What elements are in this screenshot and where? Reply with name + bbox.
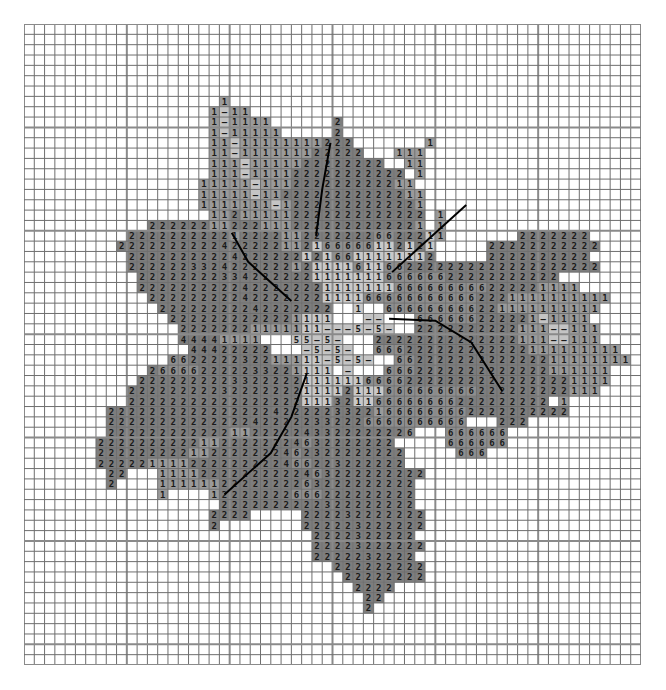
cell-symbol: 2 (98, 448, 103, 458)
cell-symbol: 2 (335, 417, 340, 427)
cell-symbol: 2 (489, 241, 494, 251)
cell-symbol: 2 (376, 335, 381, 345)
cell-symbol: 1 (232, 128, 237, 138)
cell-symbol: 2 (510, 417, 515, 427)
cell-symbol: 2 (551, 272, 556, 282)
cell-symbol: 1 (314, 272, 319, 282)
cell-symbol: 2 (448, 376, 453, 386)
cell-symbol: 2 (530, 397, 535, 407)
cell-symbol: 1 (232, 190, 237, 200)
cell-symbol: 2 (232, 293, 237, 303)
cell-symbol: 3 (242, 376, 247, 386)
cell-symbol: 6 (438, 304, 443, 314)
cell-symbol: 2 (191, 386, 196, 396)
cell-symbol: 6 (376, 417, 381, 427)
cell-symbol: 6 (427, 283, 432, 293)
cell-symbol: 3 (355, 531, 360, 541)
cell-symbol: 1 (530, 335, 535, 345)
cell-symbol: 2 (304, 407, 309, 417)
cell-symbol: 1 (212, 210, 217, 220)
cell-symbol: 2 (325, 210, 330, 220)
cell-symbol: 2 (541, 231, 546, 241)
cell-symbol: 1 (541, 283, 546, 293)
cell-symbol: 1 (376, 283, 381, 293)
cell-symbol: 2 (119, 448, 124, 458)
cell-symbol: 2 (222, 314, 227, 324)
cell-symbol: 6 (397, 304, 402, 314)
cell-symbol: 2 (170, 283, 175, 293)
cell-symbol: 6 (479, 438, 484, 448)
cell-symbol: 2 (129, 386, 134, 396)
cell-symbol: 2 (386, 200, 391, 210)
cell-symbol: 2 (242, 500, 247, 510)
cell-symbol: 2 (314, 148, 319, 158)
cell-symbol: 2 (325, 490, 330, 500)
cell-symbol: 1 (294, 262, 299, 272)
cell-symbol: 1 (551, 366, 556, 376)
cell-symbol: 1 (170, 469, 175, 479)
cell-symbol: 2 (222, 355, 227, 365)
cell-symbol: 2 (407, 376, 412, 386)
cell-symbol: 6 (366, 293, 371, 303)
cell-symbol: 2 (284, 190, 289, 200)
cell-symbol: 2 (510, 355, 515, 365)
cell-symbol: 2 (242, 438, 247, 448)
cell-symbol: 2 (242, 459, 247, 469)
cell-symbol: 2 (263, 386, 268, 396)
cell-symbol: — (335, 324, 341, 334)
cell-symbol: 2 (232, 490, 237, 500)
cell-symbol: 2 (304, 293, 309, 303)
cell-symbol: 6 (407, 366, 412, 376)
cell-symbol: 1 (263, 324, 268, 334)
cell-symbol: 2 (397, 541, 402, 551)
cell-symbol: 2 (427, 345, 432, 355)
cell-symbol: 2 (222, 252, 227, 262)
cell-symbol: 2 (407, 469, 412, 479)
cell-symbol: 3 (314, 448, 319, 458)
cell-symbol: 2 (407, 335, 412, 345)
cell-symbol: 2 (314, 252, 319, 262)
cell-symbol: 2 (335, 200, 340, 210)
cell-symbol: 1 (551, 314, 556, 324)
cell-symbol: 2 (458, 355, 463, 365)
cell-symbol: 2 (469, 272, 474, 282)
cell-symbol: 2 (592, 241, 597, 251)
cell-symbol: 2 (335, 521, 340, 531)
cell-symbol: 1 (294, 324, 299, 334)
cell-symbol: 2 (242, 345, 247, 355)
cell-symbol: 2 (335, 500, 340, 510)
cell-symbol: 2 (417, 572, 422, 582)
cell-symbol: 2 (191, 428, 196, 438)
cell-symbol: 1 (314, 314, 319, 324)
cell-symbol: 2 (325, 521, 330, 531)
cell-symbol: 1 (551, 293, 556, 303)
cell-symbol: 2 (386, 169, 391, 179)
cell-symbol: 2 (345, 210, 350, 220)
cell-symbol: 2 (325, 552, 330, 562)
cell-symbol: 1 (160, 469, 165, 479)
cell-symbol: 2 (582, 252, 587, 262)
cell-symbol: 2 (355, 500, 360, 510)
cell-symbol: 2 (191, 417, 196, 427)
cell-symbol: 2 (304, 169, 309, 179)
cell-symbol: 2 (366, 562, 371, 572)
cell-symbol: 2 (232, 417, 237, 427)
cell-symbol: 1 (345, 262, 350, 272)
cell-symbol: 2 (345, 521, 350, 531)
cell-symbol: 1 (551, 355, 556, 365)
cell-symbol: 2 (417, 345, 422, 355)
cell-symbol: 1 (376, 241, 381, 251)
cell-symbol: 2 (510, 366, 515, 376)
cell-symbol: 1 (417, 200, 422, 210)
cell-symbol: 2 (345, 541, 350, 551)
cell-symbol: 2 (314, 500, 319, 510)
cell-symbol: 1 (273, 138, 278, 148)
cell-symbol: 2 (366, 179, 371, 189)
cell-symbol: 2 (273, 314, 278, 324)
cell-symbol: 2 (304, 500, 309, 510)
cell-symbol: 2 (366, 531, 371, 541)
cell-symbol: 3 (314, 428, 319, 438)
cell-symbol: 2 (551, 407, 556, 417)
cell-symbol: 2 (582, 262, 587, 272)
cell-symbol: 2 (541, 252, 546, 262)
